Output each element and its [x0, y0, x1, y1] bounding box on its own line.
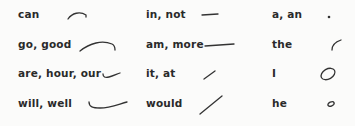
word-are-hour-our: are, hour, our	[18, 67, 101, 79]
small-arc-stroke-icon	[66, 10, 90, 22]
word-I: I	[272, 67, 276, 79]
word-go-good: go, good	[18, 38, 71, 50]
long-diagonal-stroke-icon	[197, 93, 225, 117]
short-horizontal-stroke-icon	[200, 12, 222, 18]
word-am-more: am, more	[146, 38, 204, 50]
word-will-well: will, well	[18, 97, 72, 109]
word-it-at: it, at	[146, 67, 176, 79]
short-diagonal-stroke-icon	[201, 68, 219, 82]
long-horizontal-stroke-icon	[203, 42, 237, 48]
word-he: he	[272, 97, 287, 109]
shorthand-chart: can go, good are, hour, our will, well i…	[0, 0, 355, 126]
word-can: can	[18, 8, 39, 20]
dot-icon	[326, 14, 332, 20]
word-a-an: a, an	[272, 8, 302, 20]
small-hook-curve-stroke-icon	[100, 70, 124, 82]
long-arc-stroke-icon	[78, 40, 118, 54]
small-circle-icon	[326, 100, 336, 108]
word-would: would	[146, 97, 183, 109]
small-upward-curve-stroke-icon	[330, 38, 344, 52]
long-hook-curve-stroke-icon	[86, 98, 130, 112]
word-in-not: in, not	[146, 8, 186, 20]
word-the: the	[272, 38, 292, 50]
large-circle-icon	[318, 66, 338, 82]
